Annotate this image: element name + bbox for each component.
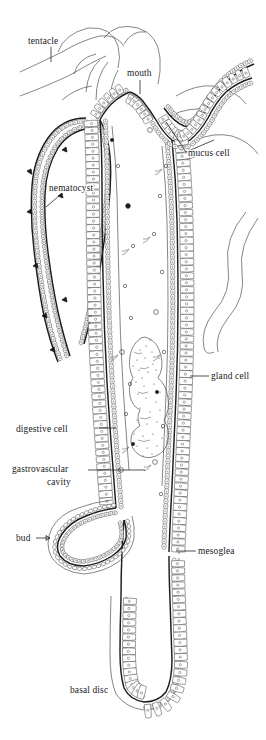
label-gastrovascular-cavity: gastrovascular <box>12 464 69 474</box>
label-nematocyst: nematocyst <box>49 183 93 193</box>
hydra-diagram-svg: tentacletentacle mouthmouth mucus cellmu… <box>0 0 266 740</box>
bud <box>48 500 134 598</box>
ectoderm-cells-right <box>162 139 175 549</box>
leader-nematocyst <box>46 195 60 207</box>
label-bud: bud <box>16 533 31 543</box>
label-gland-cell: gland cell <box>211 371 249 381</box>
label-digestive-cell: digestive cell <box>16 424 68 434</box>
label-mucus-cell: mucus cell <box>188 148 230 158</box>
label-mesoglea: mesoglea <box>198 546 235 556</box>
label-tentacle: tentacle <box>28 36 58 46</box>
hypostome-cells <box>91 58 254 150</box>
label-gastrovascular-cavity-line2: cavity <box>47 477 71 487</box>
label-basal-disc: basal disc <box>70 685 108 695</box>
hydra-diagram: tentacletentacle mouthmouth mucus cellmu… <box>0 0 266 740</box>
endoderm-cells-right <box>172 139 194 553</box>
food-mass <box>129 337 168 458</box>
label-mouth: mouth <box>127 68 152 78</box>
